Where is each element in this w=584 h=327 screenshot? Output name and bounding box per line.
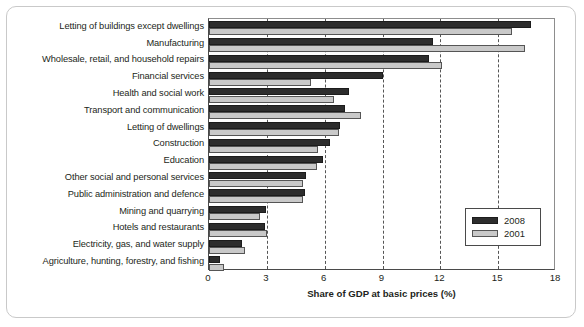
category-label: Financial services	[0, 71, 204, 81]
legend-item-2008: 2008	[472, 214, 534, 227]
category-label: Wholesale, retail, and household repairs	[0, 54, 204, 64]
category-label: Letting of dwellings	[0, 122, 204, 132]
bar-2008	[209, 21, 531, 28]
x-tick-0: 0	[205, 272, 210, 283]
bar-2008	[209, 240, 242, 247]
bar-2001	[209, 196, 303, 203]
bar-2001	[209, 213, 260, 220]
bar-group	[209, 36, 554, 53]
category-label: Letting of buildings except dwellings	[0, 21, 204, 31]
bar-group	[209, 19, 554, 36]
bar-2001	[209, 62, 442, 69]
bar-group	[209, 69, 554, 86]
bar-2008	[209, 72, 383, 79]
bar-2008	[209, 88, 349, 95]
bar-2008	[209, 172, 306, 179]
bar-2001	[209, 264, 224, 271]
category-label: Agriculture, hunting, forestry, and fish…	[0, 256, 204, 266]
bar-2008	[209, 223, 265, 230]
bar-2008	[209, 139, 330, 146]
category-label: Transport and communication	[0, 105, 204, 115]
bar-2008	[209, 55, 429, 62]
bar-group	[209, 170, 554, 187]
bar-2008	[209, 38, 433, 45]
bar-2008	[209, 122, 340, 129]
bar-2001	[209, 45, 525, 52]
bar-group	[209, 137, 554, 154]
category-axis-labels: Letting of buildings except dwellingsMan…	[0, 18, 204, 270]
x-tick-9: 9	[379, 272, 384, 283]
chart-container: Letting of buildings except dwellingsMan…	[0, 0, 584, 327]
bar-group	[209, 86, 554, 103]
chart-legend: 2008 2001	[465, 208, 541, 246]
bar-group	[209, 254, 554, 271]
legend-label-2008: 2008	[504, 215, 525, 226]
x-tick-15: 15	[492, 272, 503, 283]
bar-2001	[209, 129, 339, 136]
bar-group	[209, 120, 554, 137]
category-label: Education	[0, 155, 204, 165]
legend-label-2001: 2001	[504, 228, 525, 239]
bar-group	[209, 153, 554, 170]
legend-swatch-2001	[472, 230, 498, 237]
bar-2008	[209, 206, 266, 213]
bar-group	[209, 187, 554, 204]
category-label: Electricity, gas, and water supply	[0, 239, 204, 249]
bar-2001	[209, 247, 245, 254]
legend-item-2001: 2001	[472, 227, 534, 240]
category-label: Public administration and defence	[0, 189, 204, 199]
bar-2001	[209, 230, 267, 237]
category-label: Other social and personal services	[0, 172, 204, 182]
legend-swatch-2008	[472, 217, 498, 224]
category-label: Health and social work	[0, 88, 204, 98]
category-label: Mining and quarrying	[0, 206, 204, 216]
category-label: Manufacturing	[0, 38, 204, 48]
x-tick-6: 6	[321, 272, 326, 283]
x-tick-3: 3	[263, 272, 268, 283]
bar-2001	[209, 28, 512, 35]
bar-2008	[209, 105, 345, 112]
bar-2008	[209, 256, 220, 263]
x-axis-title: Share of GDP at basic prices (%)	[208, 288, 555, 299]
bar-2001	[209, 163, 317, 170]
x-tick-12: 12	[434, 272, 445, 283]
bar-2001	[209, 180, 303, 187]
bar-2008	[209, 156, 323, 163]
bar-group	[209, 53, 554, 70]
bar-2001	[209, 112, 361, 119]
bar-2001	[209, 79, 311, 86]
bar-2001	[209, 96, 334, 103]
category-label: Hotels and restaurants	[0, 222, 204, 232]
bar-2001	[209, 146, 318, 153]
x-tick-18: 18	[550, 272, 561, 283]
category-label: Construction	[0, 138, 204, 148]
bar-2008	[209, 189, 305, 196]
bar-group	[209, 103, 554, 120]
x-axis-tick-labels: 0369121518	[208, 272, 555, 286]
